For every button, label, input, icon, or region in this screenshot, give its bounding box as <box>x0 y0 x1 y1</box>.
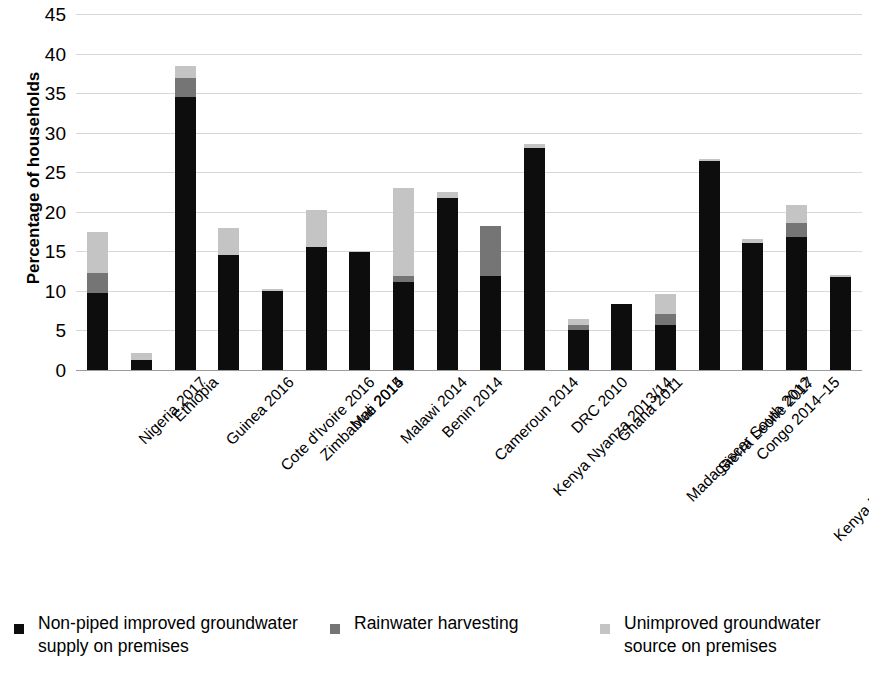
gridline-0 <box>76 370 862 371</box>
bar-stack <box>218 228 239 370</box>
bar-group[interactable] <box>437 14 458 370</box>
y-tick-label-40: 40 <box>45 44 66 63</box>
bar-segment <box>699 161 720 370</box>
bar-stack <box>830 275 851 370</box>
legend-item[interactable]: Unimproved groundwater source on premise… <box>600 612 869 658</box>
bar-segment <box>437 198 458 370</box>
bar-segment <box>568 330 589 370</box>
bar-stack <box>131 353 152 370</box>
bar-segment <box>175 97 196 370</box>
bar-segment <box>655 294 676 314</box>
legend-label: Unimproved groundwater source on premise… <box>624 612 869 658</box>
bar-group[interactable] <box>611 14 632 370</box>
bar-segment <box>349 252 370 370</box>
bar-group[interactable] <box>568 14 589 370</box>
bar-stack <box>699 159 720 370</box>
y-axis-tick-labels: 051015202530354045 <box>0 0 76 384</box>
bar-series-container <box>76 14 862 370</box>
bar-stack <box>480 226 501 370</box>
x-tick-label: Guinea 2016 <box>223 374 297 448</box>
bar-segment <box>131 360 152 370</box>
bar-segment <box>393 282 414 370</box>
legend-swatch-light-gray <box>600 624 610 634</box>
bar-segment <box>175 78 196 97</box>
bar-stack <box>87 232 108 370</box>
legend-swatch-black <box>14 624 24 634</box>
x-axis-tick-labels: Nigeria 2017EthiopiaGuinea 2016Cote d'Iv… <box>76 374 862 574</box>
bar-segment <box>480 226 501 276</box>
legend-label: Non-piped improved groundwater supply on… <box>38 612 308 658</box>
bar-stack <box>349 251 370 370</box>
y-tick-label-35: 35 <box>45 84 66 103</box>
bar-group[interactable] <box>349 14 370 370</box>
bar-stack <box>611 304 632 370</box>
bar-group[interactable] <box>218 14 239 370</box>
chart-legend: Non-piped improved groundwater supply on… <box>0 612 869 675</box>
bar-segment <box>175 66 196 78</box>
bar-group[interactable] <box>262 14 283 370</box>
y-tick-label-10: 10 <box>45 281 66 300</box>
bar-segment <box>262 291 283 370</box>
legend-item[interactable]: Rainwater harvesting <box>330 612 518 635</box>
y-tick-label-20: 20 <box>45 202 66 221</box>
bar-segment <box>786 205 807 222</box>
bar-segment <box>655 314 676 325</box>
bar-stack <box>437 192 458 370</box>
bar-group[interactable] <box>742 14 763 370</box>
bar-stack <box>786 205 807 370</box>
bar-segment <box>87 232 108 272</box>
bar-segment <box>87 273 108 294</box>
bar-segment <box>611 304 632 370</box>
bar-segment <box>480 276 501 370</box>
bar-group[interactable] <box>131 14 152 370</box>
bar-group[interactable] <box>480 14 501 370</box>
bar-group[interactable] <box>175 14 196 370</box>
bar-segment <box>306 247 327 370</box>
y-tick-label-30: 30 <box>45 123 66 142</box>
bar-group[interactable] <box>524 14 545 370</box>
y-tick-label-5: 5 <box>55 321 66 340</box>
y-tick-label-25: 25 <box>45 163 66 182</box>
y-tick-label-15: 15 <box>45 242 66 261</box>
bar-segment <box>306 210 327 247</box>
bar-group[interactable] <box>786 14 807 370</box>
bar-stack <box>306 210 327 370</box>
bar-stack <box>568 319 589 370</box>
y-tick-label-45: 45 <box>45 5 66 24</box>
bar-segment <box>218 255 239 370</box>
bar-group[interactable] <box>393 14 414 370</box>
bar-stack <box>524 144 545 370</box>
bar-stack <box>742 239 763 370</box>
legend-label: Rainwater harvesting <box>354 612 518 635</box>
plot-area <box>76 14 862 370</box>
bar-group[interactable] <box>87 14 108 370</box>
bar-segment <box>524 148 545 370</box>
legend-swatch-dark-gray <box>330 624 340 634</box>
bar-group[interactable] <box>699 14 720 370</box>
bar-segment <box>786 223 807 237</box>
bar-segment <box>218 228 239 255</box>
bar-segment <box>87 293 108 370</box>
bar-group[interactable] <box>830 14 851 370</box>
y-tick-label-0: 0 <box>55 361 66 380</box>
bar-segment <box>393 188 414 276</box>
bar-group[interactable] <box>655 14 676 370</box>
bar-segment <box>655 325 676 370</box>
bar-stack <box>655 294 676 370</box>
x-tick-label: Cameroun 2014 <box>492 374 582 464</box>
stacked-bar-chart-figure: Percentage of households 051015202530354… <box>0 0 869 675</box>
bar-stack <box>393 188 414 370</box>
bar-group[interactable] <box>306 14 327 370</box>
bar-segment <box>742 243 763 370</box>
x-tick-label: Kenya Bungoma county 2013/14 <box>831 374 869 544</box>
bar-stack <box>262 289 283 370</box>
legend-item[interactable]: Non-piped improved groundwater supply on… <box>14 612 308 658</box>
bar-stack <box>175 66 196 370</box>
bar-segment <box>786 237 807 370</box>
bar-segment <box>830 277 851 370</box>
